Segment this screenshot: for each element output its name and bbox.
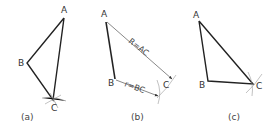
point-label-c: C: [256, 81, 262, 91]
triangle-construction-diagram: A B C (a) A B C R=AC r=BC (b) A B C (c): [0, 0, 278, 129]
panel-a: A B C (a): [18, 5, 68, 122]
point-label-a: A: [61, 5, 68, 15]
point-label-b: B: [18, 58, 24, 68]
triangle-abc: [199, 21, 253, 84]
point-label-c: C: [51, 103, 57, 113]
point-label-c: C: [163, 80, 169, 90]
panel-c: A B C (c): [193, 10, 262, 122]
dimension-label-r-ac: R=AC: [127, 36, 151, 58]
panel-b: A B C R=AC r=BC (b): [101, 9, 176, 122]
point-label-a: A: [101, 9, 108, 19]
point-label-a: A: [193, 10, 200, 20]
point-label-b: B: [199, 80, 205, 90]
dimension-label-r-bc: r=BC: [123, 79, 146, 95]
panel-caption-a: (a): [21, 112, 34, 122]
triangle-abc: [27, 18, 64, 100]
panel-caption-b: (b): [131, 112, 144, 122]
panel-caption-c: (c): [228, 112, 240, 122]
side-ab: [106, 22, 115, 79]
point-label-b: B: [108, 78, 114, 88]
